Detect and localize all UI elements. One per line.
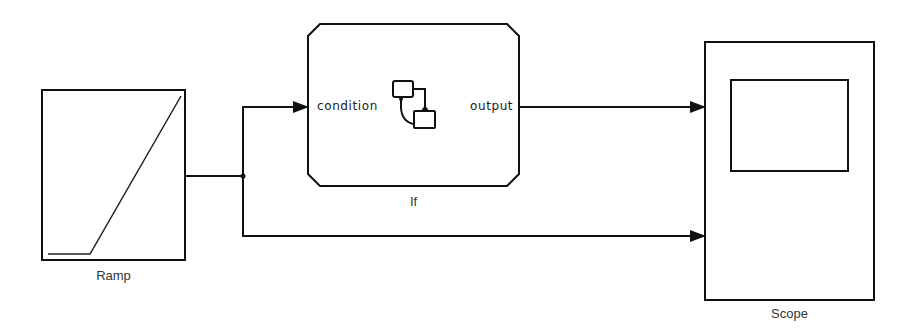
if-output-port: output <box>470 99 513 113</box>
if-label: If <box>308 194 519 209</box>
ramp-label: Ramp <box>42 268 185 283</box>
scope-screen-icon <box>731 80 848 171</box>
if-condition-port: condition <box>317 99 378 113</box>
scope-label: Scope <box>705 306 874 321</box>
branch-point <box>241 174 246 179</box>
diagram-canvas <box>0 0 916 334</box>
ramp-block[interactable] <box>42 90 185 260</box>
scope-block[interactable] <box>705 42 874 300</box>
line-ramp-to-if <box>243 107 308 176</box>
